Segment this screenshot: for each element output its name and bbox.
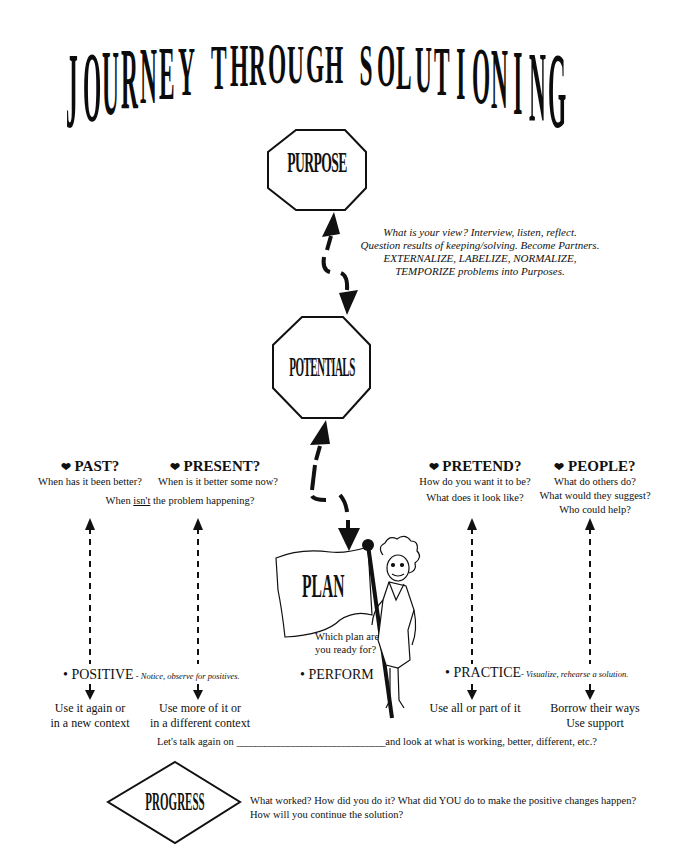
positive-bullet: • POSITIVE - Notice, observe for positiv… bbox=[63, 667, 240, 683]
past-outcome: Use it again or in a new context bbox=[40, 701, 140, 731]
plan-label: PLAN bbox=[302, 568, 344, 607]
present-heading: ❤ PRESENT? bbox=[160, 458, 270, 475]
present-up-arrowhead bbox=[193, 518, 203, 530]
perform-bullet: • PERFORM bbox=[300, 667, 374, 683]
followup-date-blank[interactable]: ________________________________ bbox=[236, 736, 385, 747]
present-outcome: Use more of it or in a different context bbox=[140, 701, 260, 731]
past-question: When has it been better? bbox=[30, 474, 150, 490]
people-outcome: Borrow their ways Use support bbox=[540, 701, 650, 731]
flag-pole-knob bbox=[362, 539, 374, 551]
pretend-outcome: Use all or part of it bbox=[420, 701, 530, 716]
past-up-arrowhead bbox=[85, 518, 95, 530]
people-heading: ❤ PEOPLE? bbox=[540, 458, 650, 475]
diagram-canvas bbox=[0, 0, 674, 864]
purpose-potentials-arrow bbox=[322, 212, 358, 315]
progress-label: PROGRESS bbox=[145, 787, 206, 817]
potentials-plan-arrow bbox=[310, 420, 360, 551]
practice-bullet: • PRACTICE- Visualize, rehearse a soluti… bbox=[445, 665, 628, 681]
past-heading: ❤ PAST? bbox=[40, 458, 140, 475]
shared-question: When isn't the problem happening? bbox=[80, 493, 280, 509]
people-question-3: Who could help? bbox=[535, 502, 655, 518]
pretend-down-arrowhead bbox=[467, 690, 477, 700]
heart-icon: ❤ bbox=[170, 460, 180, 474]
progress-note: What worked? How did you do it? What did… bbox=[250, 794, 636, 822]
heart-icon: ❤ bbox=[554, 460, 564, 474]
pretend-heading: ❤ PRETEND? bbox=[415, 458, 535, 475]
pretend-up-arrowhead bbox=[467, 518, 477, 530]
purpose-label: PURPOSE bbox=[287, 145, 348, 180]
potentials-label: POTENTIALS bbox=[289, 350, 355, 382]
present-down-arrowhead bbox=[193, 690, 203, 700]
people-up-arrowhead bbox=[585, 518, 595, 530]
heart-icon: ❤ bbox=[429, 460, 439, 474]
followup-line: Let's talk again on ____________________… bbox=[157, 736, 597, 747]
plan-note: Which plan are you ready for? bbox=[315, 630, 375, 656]
present-question: When is it better some now? bbox=[148, 474, 288, 490]
pretend-question-2: What does it look like? bbox=[410, 490, 540, 506]
heart-icon: ❤ bbox=[61, 460, 71, 474]
past-down-arrowhead bbox=[85, 690, 95, 700]
pretend-question-1: How do you want it to be? bbox=[410, 474, 540, 490]
purpose-note: What is your view? Interview, listen, re… bbox=[360, 226, 600, 278]
people-down-arrowhead bbox=[585, 690, 595, 700]
